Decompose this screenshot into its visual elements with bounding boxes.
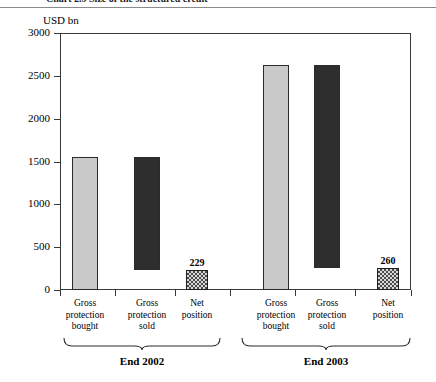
category-label-line: Gross: [294, 298, 360, 310]
figure-caption: Chart 2.9 Size of the structured credit: [46, 0, 208, 4]
x-axis-tick-mark: [411, 290, 412, 296]
category-label-line: protection: [294, 310, 360, 322]
bar-net-position-end-2002: [186, 270, 208, 290]
y-axis-tick-label: 3000: [10, 27, 50, 38]
bar-net-position-end-2003: [377, 268, 399, 290]
y-axis-tick-label: 2000: [10, 113, 50, 124]
category-label-line: Net: [164, 298, 230, 310]
x-axis-tick-mark: [60, 290, 61, 296]
category-label-line: Gross: [52, 298, 118, 310]
group-label-end-2002: End 2002: [72, 355, 212, 367]
group-brace-end-2003: [240, 338, 412, 350]
x-axis-tick-mark: [355, 290, 356, 296]
bar-gross-protection-bought-end-2002: [72, 157, 98, 290]
x-axis-category-label: Grossprotectionbought: [52, 298, 118, 333]
x-axis-category-label: Grossprotectionsold: [294, 298, 360, 333]
category-label-line: position: [355, 310, 421, 322]
category-label-line: sold: [294, 321, 360, 333]
y-axis-tick-mark: [54, 162, 60, 163]
y-axis-tick-mark: [54, 119, 60, 120]
y-axis-tick-mark: [54, 33, 60, 34]
category-label-line: protection: [52, 310, 118, 322]
x-axis-tick-mark: [115, 290, 116, 296]
brace-shape-2002: [62, 338, 222, 350]
x-axis-category-label: Netposition: [164, 298, 230, 321]
y-axis-tick-label: 0: [10, 284, 50, 295]
x-axis-tick-mark: [230, 290, 231, 296]
y-axis-tick-label: 2500: [10, 70, 50, 81]
category-label-line: bought: [52, 321, 118, 333]
category-label-line: Net: [355, 298, 421, 310]
bar-gross-protection-bought-end-2003: [263, 65, 289, 290]
category-label-line: position: [164, 310, 230, 322]
y-axis-tick-label: 500: [10, 241, 50, 252]
y-axis-tick-mark: [54, 247, 60, 248]
plot-frame: [60, 33, 411, 290]
y-axis-tick-mark: [54, 76, 60, 77]
figure-caption-strip: Chart 2.9 Size of the structured credit: [0, 0, 436, 9]
bar-value-label: 229: [172, 257, 222, 268]
bar-gross-protection-sold-end-2003: [314, 65, 340, 268]
x-axis-tick-mark: [175, 290, 176, 296]
y-axis-tick-label: 1000: [10, 198, 50, 209]
brace-shape-2003: [240, 338, 412, 350]
y-axis-tick-mark: [54, 204, 60, 205]
y-axis-unit-label: USD bn: [43, 14, 79, 26]
bar-value-label: 260: [363, 255, 413, 266]
x-axis-tick-mark: [295, 290, 296, 296]
bar-gross-protection-sold-end-2002: [134, 157, 160, 270]
group-brace-end-2002: [62, 338, 222, 350]
y-axis-tick-label: 1500: [10, 156, 50, 167]
category-label-line: sold: [114, 321, 180, 333]
caption-divider: [0, 7, 436, 8]
group-label-end-2003: End 2003: [256, 355, 396, 367]
x-axis-category-label: Netposition: [355, 298, 421, 321]
